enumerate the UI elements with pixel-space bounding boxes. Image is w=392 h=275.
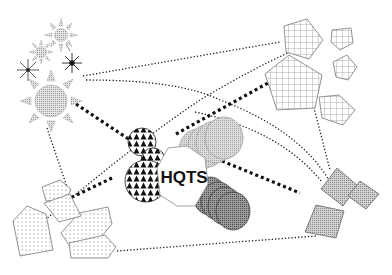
heavy-connector-sun-to-hub: [76, 104, 130, 140]
heavy-connector-polygons-to-hub: [66, 178, 112, 200]
sun-icon: [29, 40, 53, 64]
pentagon: [284, 19, 323, 59]
pentagon: [319, 95, 355, 125]
polygon: [13, 206, 53, 256]
hub-node: HQTS: [157, 146, 208, 206]
starburst-icon: [62, 44, 82, 73]
connector-polygons-to-squares-bottom: [117, 236, 316, 251]
polygon-cluster: [13, 180, 116, 258]
square-cluster: [305, 168, 379, 238]
rotated-square: [321, 168, 358, 206]
large-sun-icon: [20, 70, 82, 132]
sun-cluster: [17, 18, 82, 132]
starburst-icon: [17, 59, 39, 81]
pentagon: [333, 55, 357, 80]
pentagon: [265, 55, 322, 110]
pentagon-cluster: [265, 19, 357, 125]
hub-label: HQTS: [160, 168, 207, 187]
pentagon: [331, 28, 353, 50]
heavy-connector-hub-to-squares: [222, 161, 300, 193]
sun-icon: [44, 18, 78, 52]
rotated-square: [305, 205, 344, 238]
hqts-network-diagram: HQTS: [0, 0, 392, 275]
